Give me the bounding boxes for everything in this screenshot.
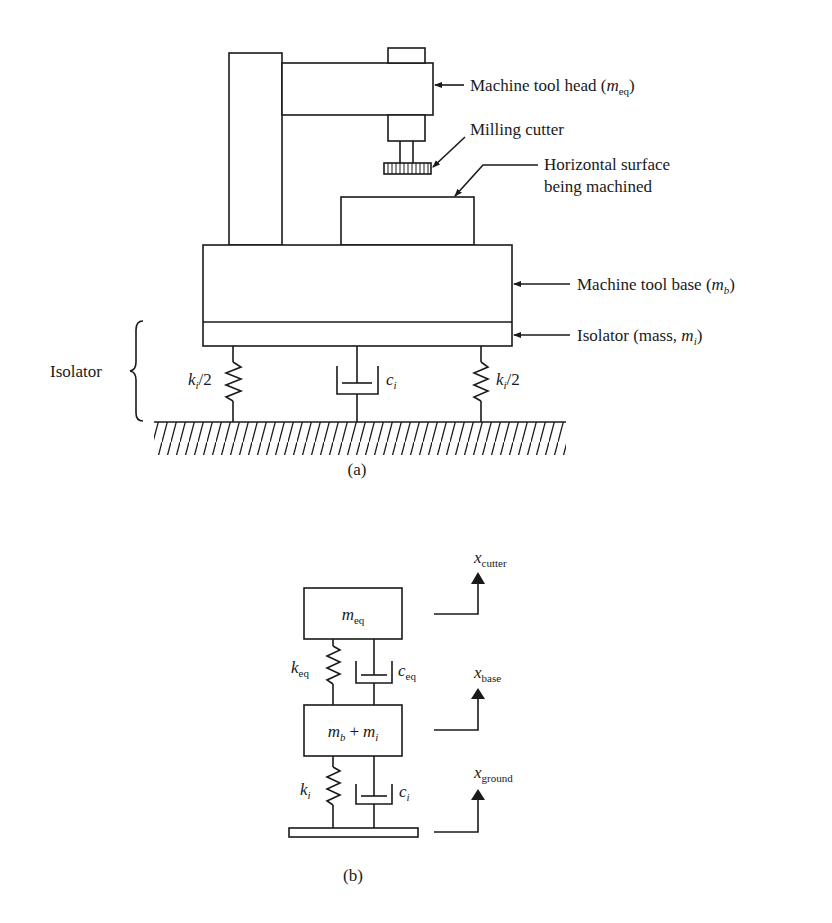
ground-hatched [154,422,566,455]
machine-tool-drawing [130,48,570,455]
label-x-cutter: xcutter [473,548,507,569]
caption-a: (a) [348,460,367,479]
label-keq: keq [291,658,309,679]
spring-right [474,346,488,422]
label-x-base: xbase [473,663,501,684]
damper-ci [337,346,378,422]
label-isolator-mass: Isolator (mass, mi) [577,326,702,347]
machine-column [229,53,282,245]
caption-b: (b) [343,866,363,885]
label-x-ground: xground [473,763,513,784]
label-spring-left: ki/2 [188,370,212,391]
arrow-x-ground [434,789,485,832]
label-spring-right: ki/2 [496,370,520,391]
label-ceq: ceq [398,661,416,682]
label-isolator-brace: Isolator [50,362,102,381]
machine-tool-head [282,63,433,115]
leader-cutter [433,137,465,167]
label-horizontal-surface-line1: Horizontal surface [544,155,670,174]
damper-ci-lower [356,756,392,828]
workpiece [341,197,474,245]
label-horizontal-surface-line2: being machined [544,177,653,196]
ground-plate [289,828,418,837]
machine-tool-base [203,245,512,346]
figure-canvas: Machine tool head (meq) Milling cutter H… [0,0,832,923]
damper-ceq [356,639,392,705]
leader-surface [455,165,538,196]
isolator-brace [130,321,143,421]
label-machine-tool-head: Machine tool head (meq) [470,76,635,97]
arrow-x-cutter [434,572,485,614]
spindle-housing [388,115,425,141]
label-milling-cutter: Milling cutter [470,120,564,139]
label-mass-mb-mi: mb+mi [328,722,379,743]
lumped-model [289,572,485,837]
label-ci: ci [399,782,410,803]
spring-left [226,346,241,422]
head-motor-cap [388,48,425,63]
label-ki: ki [300,780,311,801]
spring-ki [327,756,340,828]
label-machine-tool-base: Machine tool base (mb) [577,275,735,296]
spring-keq [327,639,340,705]
arrow-x-base [434,688,485,730]
milling-cutter [384,163,431,174]
label-damper-ci: ci [386,370,397,391]
